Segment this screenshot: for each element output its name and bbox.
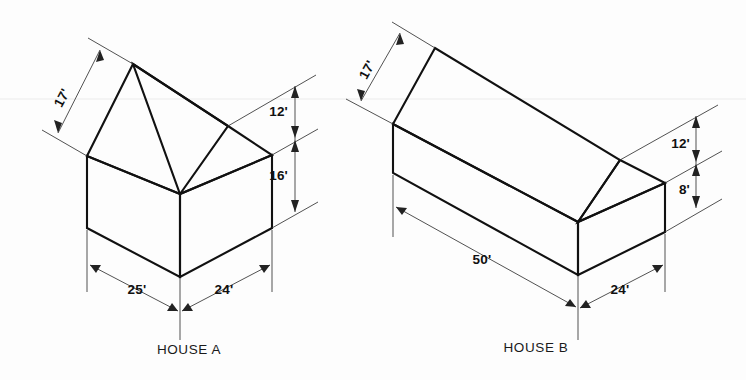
- house-a-arrow-16-bottom: [291, 200, 299, 212]
- house-a-arrow-25-left: [90, 265, 101, 273]
- house-a-arrow-17-bottom: [54, 120, 62, 133]
- house-b-dim-50: 50': [393, 175, 578, 340]
- house-a-label-12: 12': [269, 104, 288, 119]
- house-a-label-25: 25': [128, 282, 147, 297]
- house-b-dim-24: 24': [580, 234, 665, 308]
- house-a-arrow-24-right: [259, 265, 270, 273]
- house-b-ext-12-top: [620, 105, 718, 160]
- house-b-group: 17' 12' 8': [346, 22, 722, 355]
- house-b-ext-12-bottom: [665, 151, 722, 183]
- technical-drawing-canvas: 17' 12' 16': [0, 0, 746, 380]
- house-a-dim-16: 16': [269, 138, 318, 228]
- house-b-arrow-12-bottom: [692, 150, 700, 162]
- house-a-solid: [87, 64, 272, 277]
- house-b-label-8: 8': [679, 182, 690, 197]
- house-a-arrow-24-left: [182, 303, 193, 311]
- house-a-dim-25: 25': [87, 230, 180, 340]
- house-b-label-24: 24': [611, 282, 630, 297]
- house-b-arrow-50-right: [565, 299, 576, 307]
- house-a-arrow-16-top: [291, 140, 299, 152]
- house-b-ext-17-bottom: [346, 99, 393, 124]
- house-a-arrow-25-right: [167, 303, 178, 311]
- house-b-right-wall: [578, 183, 665, 275]
- house-b-label-12: 12': [671, 136, 690, 151]
- house-a-right-roof-plane: [133, 64, 272, 194]
- house-b-hip-roof-plane: [578, 160, 665, 222]
- house-b-solid: [393, 48, 665, 275]
- house-b-arrow-24-right: [652, 265, 663, 273]
- house-a-label-17: 17': [51, 86, 73, 110]
- house-b-dim-12: 12': [620, 105, 722, 183]
- house-b-caption: HOUSE B: [504, 340, 569, 355]
- house-b-label-17: 17': [356, 58, 378, 82]
- house-b-arrow-8-top: [692, 164, 700, 176]
- house-a-caption: HOUSE A: [157, 342, 221, 357]
- house-a-label-24: 24': [215, 282, 234, 297]
- house-a-dim-17: 17': [42, 38, 133, 156]
- house-a-label-16: 16': [269, 168, 288, 183]
- house-b-arrow-8-bottom: [692, 196, 700, 208]
- house-b-dim-8: 8': [665, 162, 722, 232]
- house-b-ext-8-bottom: [665, 199, 722, 232]
- house-a-arrow-12-bottom: [291, 126, 299, 138]
- house-b-arrow-50-left: [396, 207, 407, 215]
- drawing-page: 17' 12' 16': [0, 0, 746, 380]
- house-b-label-50: 50': [473, 252, 492, 267]
- house-a-arrow-12-top: [291, 86, 299, 98]
- house-a-ext-17-bottom: [42, 130, 87, 156]
- house-a-left-wall: [87, 156, 180, 277]
- house-b-arrow-12-top: [692, 116, 700, 128]
- house-a-dim-24: 24': [182, 230, 272, 311]
- house-a-dim-12: 12': [228, 75, 318, 155]
- house-b-arrow-24-left: [580, 300, 591, 308]
- house-a-group: 17' 12' 16': [42, 38, 318, 357]
- house-b-arrow-17-top: [396, 33, 404, 45]
- house-b-rear-roof-plane: [393, 48, 620, 222]
